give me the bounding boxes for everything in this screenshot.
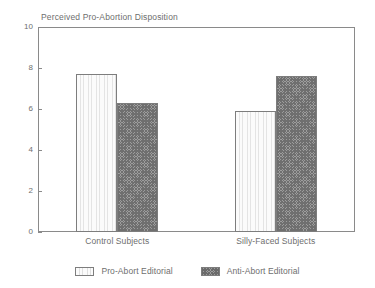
bar-chart: Perceived Pro-Abortion Disposition 02468… (0, 0, 375, 288)
y-tick-mark (38, 27, 42, 28)
legend-item: Pro-Abort Editorial (75, 266, 172, 276)
chart-legend: Pro-Abort EditorialAnti-Abort Editorial (0, 262, 375, 280)
y-axis: 0246810 (0, 27, 33, 232)
y-tick-mark (38, 232, 42, 233)
x-tick-label: Control Subjects (85, 236, 149, 246)
y-tick-mark (38, 68, 42, 69)
legend-label: Anti-Abort Editorial (227, 266, 300, 276)
legend-swatch-icon (75, 267, 94, 276)
legend-label: Pro-Abort Editorial (101, 266, 172, 276)
chart-title: Perceived Pro-Abortion Disposition (41, 12, 178, 22)
y-tick-mark (38, 150, 42, 151)
x-axis: Control SubjectsSilly-Faced Subjects (38, 236, 355, 252)
y-tick-label: 8 (29, 64, 33, 72)
y-tick-mark (38, 191, 42, 192)
y-tick-label: 10 (24, 23, 33, 31)
bar-silly-faced-subjects-pro-abort-editorial (235, 111, 276, 232)
y-tick-label: 0 (29, 228, 33, 236)
bar-control-subjects-anti-abort-editorial (117, 103, 158, 232)
bar-silly-faced-subjects-anti-abort-editorial (276, 76, 317, 232)
legend-item: Anti-Abort Editorial (201, 266, 300, 276)
y-tick-label: 2 (29, 187, 33, 195)
bar-control-subjects-pro-abort-editorial (76, 74, 117, 232)
y-tick-mark (38, 109, 42, 110)
x-tick-label: Silly-Faced Subjects (236, 236, 315, 246)
bars-layer (38, 27, 355, 232)
y-tick-label: 4 (29, 146, 33, 154)
y-tick-label: 6 (29, 105, 33, 113)
legend-swatch-icon (201, 267, 220, 276)
